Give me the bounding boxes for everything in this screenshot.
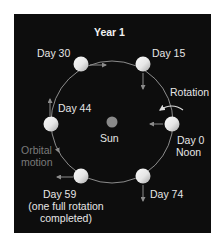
- label-day0-noon: Noon: [176, 146, 201, 158]
- planet-day74: [136, 169, 151, 184]
- diagram-title: Year 1: [94, 26, 125, 38]
- planet-day59: [74, 169, 89, 184]
- planet-day15: [136, 57, 151, 72]
- label-day59: Day 59: [43, 188, 76, 200]
- planet-day0: [165, 117, 180, 132]
- sun-icon: [107, 117, 118, 128]
- label-day15: Day 15: [152, 47, 185, 59]
- label-orbital: Orbital: [21, 144, 53, 156]
- label-day30: Day 30: [37, 47, 70, 59]
- planet-day44: [44, 117, 59, 132]
- label-rotation: Rotation: [170, 86, 209, 98]
- planet-day30: [74, 57, 89, 72]
- label-day74: Day 74: [150, 188, 183, 200]
- label-day59-note-line2: completed): [22, 212, 110, 224]
- label-motion: motion: [21, 156, 53, 168]
- label-orbital-motion: Orbital motion: [21, 144, 53, 168]
- label-day59-note: (one full rotation completed): [22, 200, 110, 224]
- label-day44: Day 44: [58, 102, 91, 114]
- label-day59-note-line1: (one full rotation: [22, 200, 110, 212]
- label-day0: Day 0: [177, 134, 204, 146]
- label-sun: Sun: [100, 132, 119, 144]
